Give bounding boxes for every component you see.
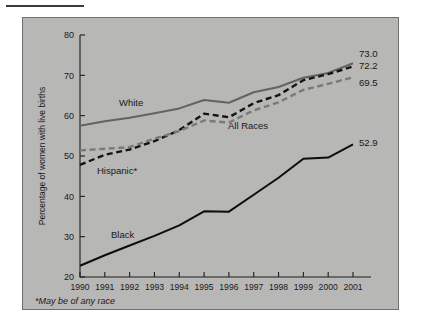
x-tick-label: 1991 — [95, 282, 114, 292]
y-tick-label: 50 — [64, 151, 74, 161]
series-label-hispanic: Hispanic* — [97, 165, 137, 176]
x-tick-label: 1990 — [70, 282, 89, 292]
chart-figure-root: 2030405060708019901991199219931994199519… — [0, 0, 421, 332]
series-label-white: White — [119, 97, 143, 108]
x-tick-label: 1997 — [244, 282, 263, 292]
line-chart-svg: 2030405060708019901991199219931994199519… — [23, 18, 400, 311]
series-line-black — [80, 144, 353, 265]
top-rule-divider — [6, 5, 84, 7]
series-end-value-all-races: 72.2 — [359, 60, 378, 71]
x-tick-label: 1994 — [170, 282, 189, 292]
y-tick-label: 30 — [64, 232, 74, 242]
series-label-all-races: All Races — [228, 120, 268, 131]
series-end-value-hispanic: 69.5 — [359, 77, 378, 88]
x-tick-label: 1992 — [120, 282, 139, 292]
x-tick-label: 2001 — [343, 282, 362, 292]
series-end-value-black: 52.9 — [359, 137, 378, 148]
y-tick-label: 20 — [64, 272, 74, 282]
x-tick-label: 1993 — [145, 282, 164, 292]
series-line-hispanic — [80, 77, 353, 150]
x-tick-label: 1995 — [195, 282, 214, 292]
y-axis-title: Percentage of women with live births — [37, 87, 47, 225]
series-line-all-races — [80, 66, 353, 164]
y-tick-label: 40 — [64, 192, 74, 202]
y-tick-label: 80 — [64, 30, 74, 40]
y-tick-label: 70 — [64, 71, 74, 81]
x-tick-label: 1996 — [219, 282, 238, 292]
y-tick-label: 60 — [64, 111, 74, 121]
x-tick-label: 2000 — [319, 282, 338, 292]
x-tick-label: 1998 — [269, 282, 288, 292]
chart-footnote: *May be of any race — [35, 296, 115, 306]
series-label-black: Black — [111, 229, 134, 240]
chart-axes — [80, 35, 371, 277]
x-tick-label: 1999 — [294, 282, 313, 292]
chart-panel: 2030405060708019901991199219931994199519… — [22, 17, 399, 310]
series-end-value-white: 73.0 — [359, 48, 378, 59]
